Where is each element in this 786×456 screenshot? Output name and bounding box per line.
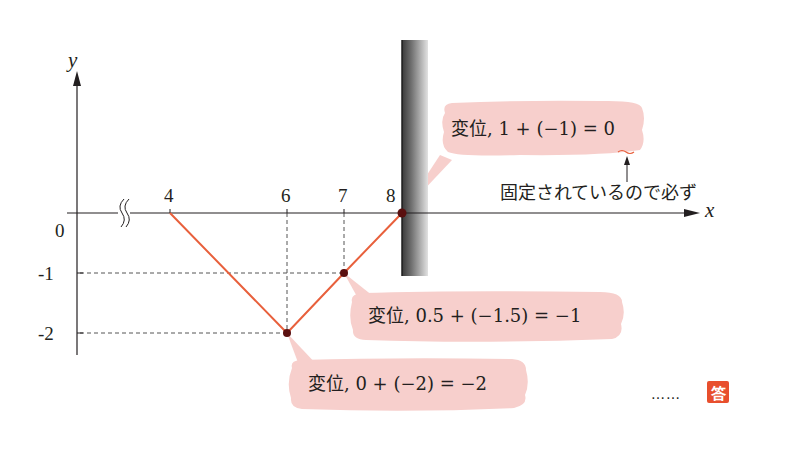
axis-break-icon: [118, 199, 130, 227]
x-tick-4: 4: [164, 186, 174, 205]
x-axis: [67, 209, 700, 217]
callout-bubble-bottom: [287, 333, 528, 411]
y-axis-label: y: [68, 50, 77, 71]
callout-text-x8: 変位, 1 + (−1) = 0: [451, 120, 615, 138]
callout-text-x7: 変位, 0.5 + (−1.5) = −1: [368, 307, 581, 325]
diagram: y x 0 -1 -2 4 6 7 8 変位, 1 + (−1) = 0 変位,…: [0, 0, 786, 456]
answer-badge: 答: [707, 381, 729, 403]
x-tick-6: 6: [281, 186, 291, 205]
y-tick-0: 0: [55, 221, 65, 240]
point-x8: [398, 209, 407, 218]
note-arrow: [618, 151, 634, 183]
x-tick-7: 7: [338, 186, 348, 205]
fixed-end-note: 固定されているので必ず: [500, 184, 697, 202]
answer-dots: ……: [651, 386, 681, 402]
y-tick-minus1: -1: [38, 264, 54, 283]
fixed-wall: [402, 40, 428, 276]
point-x6: [283, 329, 291, 337]
callout-text-x6: 変位, 0 + (−2) = −2: [308, 375, 487, 393]
x-axis-label: x: [705, 200, 714, 221]
x-tick-8: 8: [386, 186, 396, 205]
point-x7: [340, 269, 348, 277]
y-tick-minus2: -2: [38, 324, 54, 343]
